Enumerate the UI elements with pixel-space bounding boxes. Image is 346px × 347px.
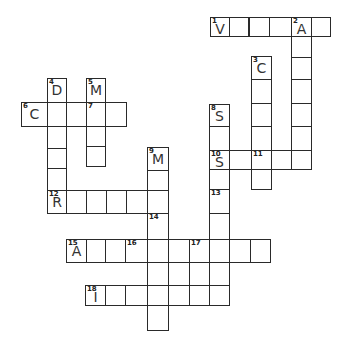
crossword-cell[interactable] [189,262,210,286]
crossword-cell[interactable]: 11 [251,150,272,170]
crossword-cell[interactable] [168,239,190,263]
crossword-cell[interactable] [291,57,312,80]
crossword-cell[interactable]: 4D [47,78,67,103]
crossword-cell[interactable] [269,17,292,37]
crossword-cell[interactable] [86,190,107,214]
crossword-cell[interactable] [209,169,230,190]
crossword-cell[interactable]: 9M [147,147,169,171]
crossword-cell[interactable]: 18I [85,285,106,306]
crossword-cell[interactable]: 15A [66,239,87,263]
clue-number: 16 [127,240,137,247]
crossword-cell[interactable] [86,239,106,263]
crossword-cell[interactable] [251,126,272,151]
crossword-cell[interactable] [126,190,148,214]
crossword-cell[interactable]: 8S [209,104,230,127]
cell-letter: V [211,22,229,36]
crossword-cell[interactable] [147,285,169,306]
crossword-cell[interactable]: 1V [210,17,230,37]
cell-letter: I [86,290,105,305]
crossword-cell[interactable] [147,239,169,263]
crossword-cell[interactable]: 7 [86,102,106,127]
crossword-cell[interactable] [251,169,272,190]
cell-letter: M [148,152,168,170]
clue-number: 7 [88,103,93,110]
crossword-cell[interactable]: 6C [21,102,48,127]
crossword-cell[interactable] [229,239,251,263]
crossword-cell[interactable] [209,213,230,240]
crossword-grid: 1V2A3C118S10S134D5M6C79M12R1415A161718I [0,0,346,347]
crossword-cell[interactable] [47,126,67,149]
crossword-cell[interactable] [86,126,106,147]
cell-letter: C [252,61,271,79]
clue-number: 11 [253,151,263,158]
crossword-cell[interactable] [106,190,127,214]
crossword-cell[interactable] [291,79,312,104]
crossword-cell[interactable] [291,150,312,170]
crossword-cell[interactable] [291,126,312,151]
crossword-cell[interactable] [47,148,67,169]
crossword-cell[interactable]: 16 [125,239,148,263]
crossword-cell[interactable]: 13 [209,189,230,214]
crossword-cell[interactable] [47,168,67,191]
cell-letter: A [67,244,86,262]
crossword-cell[interactable]: 2A [291,17,312,37]
crossword-cell[interactable] [249,17,270,37]
cell-letter: S [210,109,229,126]
crossword-cell[interactable] [229,17,249,37]
crossword-cell[interactable]: 3C [251,56,272,80]
crossword-cell[interactable] [147,305,169,331]
crossword-cell[interactable] [251,79,272,104]
crossword-cell[interactable] [251,103,272,127]
crossword-cell[interactable] [291,36,312,58]
clue-number: 13 [211,190,221,197]
crossword-cell[interactable] [311,17,331,37]
cell-letter: C [22,107,47,126]
crossword-cell[interactable]: 10S [209,150,230,170]
crossword-cell[interactable] [47,102,67,127]
crossword-cell[interactable] [271,150,292,170]
crossword-cell[interactable] [291,103,312,127]
crossword-cell[interactable] [105,102,127,127]
crossword-cell[interactable] [66,190,87,214]
crossword-cell[interactable] [250,239,271,263]
clue-number: 14 [149,214,159,221]
crossword-cell[interactable] [125,285,148,306]
crossword-cell[interactable] [209,239,230,263]
cell-letter: R [48,195,66,213]
crossword-cell[interactable] [209,126,230,151]
crossword-cell[interactable] [147,170,169,191]
crossword-cell[interactable] [209,285,230,306]
crossword-cell[interactable] [105,285,126,306]
crossword-cell[interactable] [105,239,126,263]
clue-number: 17 [191,240,201,247]
cell-letter: A [292,22,311,36]
crossword-cell[interactable] [86,146,106,167]
cell-letter: D [48,83,66,102]
crossword-cell[interactable] [209,262,230,286]
crossword-cell[interactable]: 17 [189,239,210,263]
crossword-cell[interactable] [147,190,169,214]
crossword-cell[interactable]: 5M [86,78,106,103]
crossword-cell[interactable] [66,102,87,127]
cell-letter: S [210,155,229,169]
crossword-cell[interactable] [168,285,190,306]
crossword-cell[interactable] [147,262,169,286]
crossword-cell[interactable]: 14 [147,213,169,240]
crossword-cell[interactable] [189,285,210,306]
crossword-cell[interactable] [229,150,252,170]
crossword-cell[interactable]: 12R [47,190,67,214]
cell-letter: M [87,83,105,102]
